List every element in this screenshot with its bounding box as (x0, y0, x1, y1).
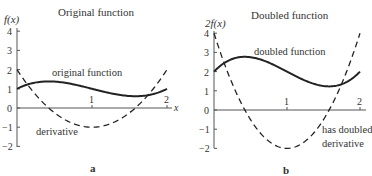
y-tick-label: −1 (199, 124, 210, 135)
doubled-function-label: doubled function (254, 46, 326, 57)
panel-a-chart: Original function f(x) −2−101234 12 x or… (2, 6, 179, 174)
y-tick-label: −2 (2, 141, 13, 152)
y-tick-label: 2 (204, 67, 209, 78)
y-tick-label: 0 (7, 103, 12, 114)
doubled-derivative-label-line2: derivative (322, 138, 364, 149)
y-tick-label: −2 (199, 143, 210, 154)
y-tick-label: 2 (7, 65, 12, 76)
y-tick-label: 1 (204, 86, 209, 97)
charts-figure: Original function f(x) −2−101234 12 x or… (0, 0, 372, 176)
panel-a-caption: a (90, 162, 96, 174)
x-tick-label: 1 (89, 94, 94, 105)
doubled-function-curve (214, 57, 360, 87)
y-tick-label: 1 (7, 84, 12, 95)
panel-b-title: Doubled function (251, 9, 329, 21)
x-tick-label: 2 (164, 94, 169, 105)
y-tick-label: 3 (7, 45, 12, 56)
panel-b-chart: Doubled function 2f(x) −2−101234 12 doub… (199, 9, 372, 176)
panel-a-xlabel: x (173, 102, 179, 113)
y-tick-label: −1 (2, 122, 13, 133)
derivative-label: derivative (36, 126, 78, 137)
y-tick-label: 3 (204, 47, 209, 58)
original-function-label: original function (52, 67, 123, 78)
doubled-derivative-label-line1: has doubled (322, 124, 372, 135)
panel-a-ylabel: f(x) (4, 13, 20, 26)
x-tick-label: 2 (357, 96, 362, 107)
y-tick-label: 4 (204, 28, 209, 39)
x-tick-label: 1 (284, 96, 289, 107)
panel-b-caption: b (283, 164, 289, 176)
y-tick-label: 4 (7, 26, 12, 37)
y-tick-label: 0 (204, 105, 209, 116)
panel-a-title: Original function (58, 6, 135, 18)
